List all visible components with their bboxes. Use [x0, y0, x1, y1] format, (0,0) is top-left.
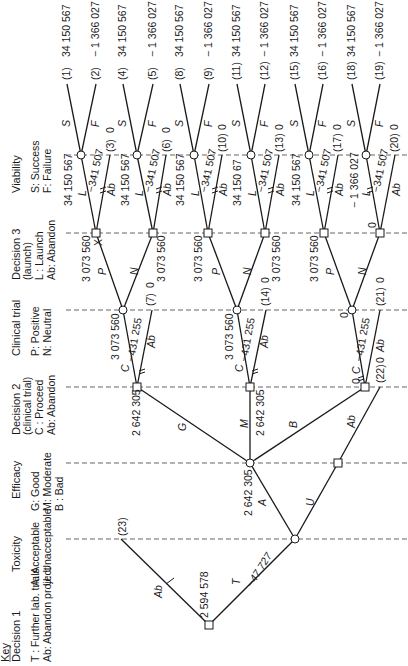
stage-viability-title: Viability	[10, 155, 22, 193]
outcome-id: (11)	[230, 62, 242, 80]
branch-label-m: M	[238, 419, 250, 428]
decision1-node	[205, 621, 213, 629]
launch-value: 34 150 567	[174, 153, 186, 206]
outcome-value: − 1 366 027	[316, 1, 328, 57]
branch-label-f: F	[258, 120, 270, 127]
outcome-id: (13)	[273, 133, 285, 152]
viability-chance-node-3	[190, 151, 198, 159]
outcome-value: 0	[388, 124, 400, 130]
stage-decision1-title: Decision 1	[10, 611, 22, 662]
outcome-id: (1)	[60, 67, 72, 80]
decision-tree-diagram: Key Decision 1 T : Further lab. trials A…	[0, 0, 408, 666]
legend-viability-s: S: Success	[29, 140, 41, 193]
outcome-id: (22)	[374, 364, 386, 383]
clinical-positive-value: 3 073 560	[192, 235, 204, 282]
outcome-value: 0	[374, 357, 386, 363]
branch-label-f: F	[202, 120, 214, 127]
key-legend: Key Decision 1 T : Further lab. trials A…	[0, 140, 65, 662]
branch-label-l: L	[133, 190, 145, 196]
branch-label-n: N	[241, 267, 253, 275]
stage-decision3-subtitle: (launch)	[21, 242, 33, 280]
legend-efficacy-b: B : Bad	[53, 476, 65, 511]
toxicity-chance-node	[291, 535, 299, 543]
outcome-id: (23)	[116, 517, 128, 536]
decision3-node-5	[320, 229, 328, 237]
viability-chance-node-6	[362, 151, 370, 159]
launch-value: 34 150 567	[290, 153, 302, 206]
outcome-value: 34 150 567	[230, 4, 242, 57]
decision2-bad-value: 0	[338, 312, 350, 318]
decision2-node-moderate	[246, 383, 254, 391]
branch-label-n: N	[356, 267, 368, 275]
branch-label-ab: Ab	[152, 585, 164, 599]
legend-clinical-n: N: Neutral	[41, 309, 53, 356]
outcome-labels: (1) 34 150 567 (2) − 1 366 027 (3) 0 (4)…	[60, 1, 400, 536]
efficacy-good-value: 2 642 305	[130, 389, 142, 436]
legend-toxicity-a: A: Acceptable	[29, 522, 41, 586]
viability-chance-node-2	[133, 151, 141, 159]
efficacy-chance-node	[246, 459, 254, 467]
clinical-trial-cost: −431 255	[124, 317, 144, 363]
outcome-value: 34 150 567	[60, 4, 72, 57]
branch-label-ab: Ab	[274, 183, 286, 197]
outcome-value: 0	[331, 124, 343, 130]
outcome-id: (2)	[89, 67, 101, 80]
decision2-bad-square-value: 0	[350, 378, 362, 384]
branch-label-n: N	[128, 267, 140, 275]
launch-cost: −341 507	[254, 148, 275, 194]
branch-label-l: L	[304, 190, 316, 196]
branch-label-s: S	[116, 120, 128, 127]
branch-label-f: F	[316, 120, 328, 127]
outcome-id: (7)	[144, 293, 156, 306]
launch-cost: −341 507	[141, 148, 162, 194]
legend-efficacy-g: G: Good	[29, 471, 41, 511]
decision2-good-value: 3 073 560	[109, 313, 121, 360]
branch-label-ab: Ab	[105, 183, 117, 197]
branch-label-ab: Ab	[258, 335, 270, 349]
outcome-id: (20)	[388, 133, 400, 152]
efficacy-moderate-value: 2 642 305	[254, 389, 266, 436]
viability-chance-node-4	[247, 151, 255, 159]
branch-label-ab: Ab	[374, 339, 386, 353]
branch-label-ab: Ab	[390, 183, 402, 197]
outcome-value: 34 150 567	[345, 4, 357, 57]
outcome-value: 0	[273, 124, 285, 130]
toxicity-value: 2 642 305	[242, 469, 254, 516]
branch-label-f: F	[146, 120, 158, 127]
clinical-neutral-value: 3 073 560	[270, 235, 282, 282]
branch-label-p: P	[96, 268, 108, 275]
decision2-moderate-value: 3 073 560	[223, 313, 235, 360]
branch-label-p: P	[324, 268, 336, 275]
outcome-value: − 1 366 027	[89, 1, 101, 57]
legend-decision3-ab: Ab: Abandon	[45, 220, 57, 280]
legend-clinical-p: P: Positive	[29, 306, 41, 356]
branch-label-ab: Ab	[161, 183, 173, 197]
outcome-value: 0	[160, 127, 172, 133]
launch-cost: −341 507	[84, 148, 105, 194]
clinical-trial-cost: −431 255	[237, 317, 257, 363]
clinical-trial-cost: −431 255	[352, 317, 372, 363]
legend-efficacy-m: M: Moderate	[41, 452, 53, 511]
branch-label-u: U	[304, 498, 316, 506]
outcome-id: (4)	[116, 67, 128, 80]
branch-label-p: P	[210, 268, 222, 275]
x-mark: X	[92, 239, 104, 246]
outcome-value: 34 150 567	[288, 4, 300, 57]
outcome-id: (15)	[288, 61, 300, 80]
branch-label-s: S	[173, 120, 185, 127]
outcome-value: − 1 366 027	[146, 1, 158, 57]
decision2-node-bad	[361, 383, 369, 391]
outcome-id: (14)	[259, 287, 271, 306]
outcome-value: − 1 366 027	[373, 1, 385, 57]
node-value-labels: 2 594 578 −47 727 2 642 305 2 642 305 2 …	[62, 148, 390, 618]
outcome-id: (6)	[160, 139, 172, 152]
branch-label-l: L	[76, 190, 88, 196]
outcome-value: 0	[374, 277, 386, 283]
outcome-id: (8)	[173, 67, 185, 80]
outcome-id: (17)	[331, 133, 343, 152]
branch-label-l: L	[360, 190, 372, 196]
branch-label-ab: Ab	[333, 183, 345, 197]
legend-decision3-l: L : Launch	[33, 231, 45, 280]
branch-label-c: C	[233, 364, 245, 372]
branch-label-a: A	[256, 499, 268, 507]
